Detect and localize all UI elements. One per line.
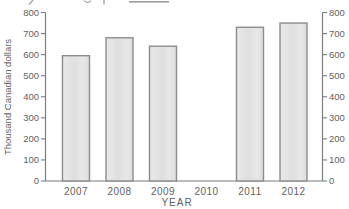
bar-2007 xyxy=(63,56,90,181)
cropped-title-fragments xyxy=(29,0,169,5)
y-tick-label-left-400: 400 xyxy=(23,91,39,102)
bar-2009 xyxy=(150,46,177,181)
bar-2008 xyxy=(106,38,133,181)
y-tick-label-right-0: 0 xyxy=(329,175,334,186)
x-tick-label-2011: 2011 xyxy=(238,186,262,197)
chart-canvas: 0010010020020030030040040050050060060070… xyxy=(0,0,349,209)
y-tick-label-left-700: 700 xyxy=(23,28,39,39)
bar-chart-figure: 0010010020020030030040040050050060060070… xyxy=(0,0,349,209)
cropped-text-fragment xyxy=(84,1,91,3)
y-tick-label-left-600: 600 xyxy=(23,49,39,60)
y-tick-label-right-100: 100 xyxy=(329,154,345,165)
y-tick-label-right-400: 400 xyxy=(329,91,345,102)
cropped-text-fragment xyxy=(129,1,169,3)
y-tick-label-left-200: 200 xyxy=(23,133,39,144)
x-axis-label: YEAR xyxy=(161,197,192,208)
y-tick-label-left-300: 300 xyxy=(23,112,39,123)
y-tick-label-left-0: 0 xyxy=(34,175,39,186)
y-tick-label-left-100: 100 xyxy=(23,154,39,165)
y-tick-label-right-300: 300 xyxy=(329,112,345,123)
y-tick-label-right-600: 600 xyxy=(329,49,345,60)
x-tick-label-2012: 2012 xyxy=(281,186,305,197)
y-tick-label-right-200: 200 xyxy=(329,133,345,144)
y-tick-label-left-800: 800 xyxy=(23,7,39,18)
bar-2012 xyxy=(280,23,307,181)
y-tick-label-right-500: 500 xyxy=(329,70,345,81)
y-axis-label: Thousand Canadian dollars xyxy=(2,39,13,155)
x-tick-label-2007: 2007 xyxy=(64,186,88,197)
bar-2011 xyxy=(237,27,264,181)
y-tick-label-right-800: 800 xyxy=(329,7,345,18)
y-tick-label-right-700: 700 xyxy=(329,28,345,39)
x-tick-label-2010: 2010 xyxy=(194,186,218,197)
y-tick-label-left-500: 500 xyxy=(23,70,39,81)
x-tick-label-2008: 2008 xyxy=(107,186,131,197)
x-tick-label-2009: 2009 xyxy=(151,186,175,197)
cropped-text-fragment xyxy=(29,0,33,5)
